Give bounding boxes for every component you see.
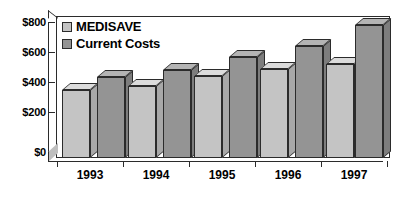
bar-current-costs-1996[interactable] <box>295 46 323 158</box>
x-axis-tick-4 <box>321 161 322 167</box>
x-axis-tick-0 <box>57 161 58 167</box>
bar-current-costs-1997[interactable] <box>355 25 383 158</box>
bar-medisave-1994[interactable] <box>128 86 156 158</box>
bar-front <box>326 64 354 158</box>
bar-medisave-1996[interactable] <box>260 69 288 158</box>
bar-front <box>163 70 191 158</box>
bar-current-costs-1995[interactable] <box>229 57 257 158</box>
legend: MEDISAVE Current Costs <box>62 19 182 53</box>
bar-front <box>295 46 323 158</box>
bar-front <box>97 77 125 158</box>
bar-front <box>229 57 257 158</box>
x-tick-label-1995: 1995 <box>192 168 252 182</box>
legend-swatch-icon <box>62 39 72 49</box>
x-tick-label-1993: 1993 <box>60 168 120 182</box>
x-tick-label-1997: 1997 <box>324 168 384 182</box>
bar-current-costs-1994[interactable] <box>163 70 191 158</box>
x-axis-tick-5 <box>387 161 388 167</box>
bar-medisave-1993[interactable] <box>62 90 90 158</box>
bar-current-costs-1993[interactable] <box>97 77 125 158</box>
x-tick-label-1994: 1994 <box>126 168 186 182</box>
bar-medisave-1997[interactable] <box>326 64 354 158</box>
bar-chart: $800 $600 $400 $200 $0 <box>0 0 403 199</box>
bar-front <box>62 90 90 158</box>
legend-label-current-costs: Current Costs <box>76 36 160 51</box>
legend-item-medisave[interactable]: MEDISAVE <box>62 19 182 34</box>
bar-side <box>383 18 391 158</box>
legend-swatch-icon <box>62 22 72 32</box>
bar-front <box>194 76 222 158</box>
bar-medisave-1995[interactable] <box>194 76 222 158</box>
x-axis-tick-1 <box>123 161 124 167</box>
bar-front <box>260 69 288 158</box>
x-axis-tick-2 <box>189 161 190 167</box>
bar-front <box>355 25 383 158</box>
legend-item-current-costs[interactable]: Current Costs <box>62 36 182 51</box>
x-axis: 1993 1994 1995 1996 1997 <box>0 168 403 192</box>
x-tick-label-1996: 1996 <box>258 168 318 182</box>
x-axis-tick-3 <box>255 161 256 167</box>
bar-front <box>128 86 156 158</box>
legend-label-medisave: MEDISAVE <box>76 19 141 34</box>
